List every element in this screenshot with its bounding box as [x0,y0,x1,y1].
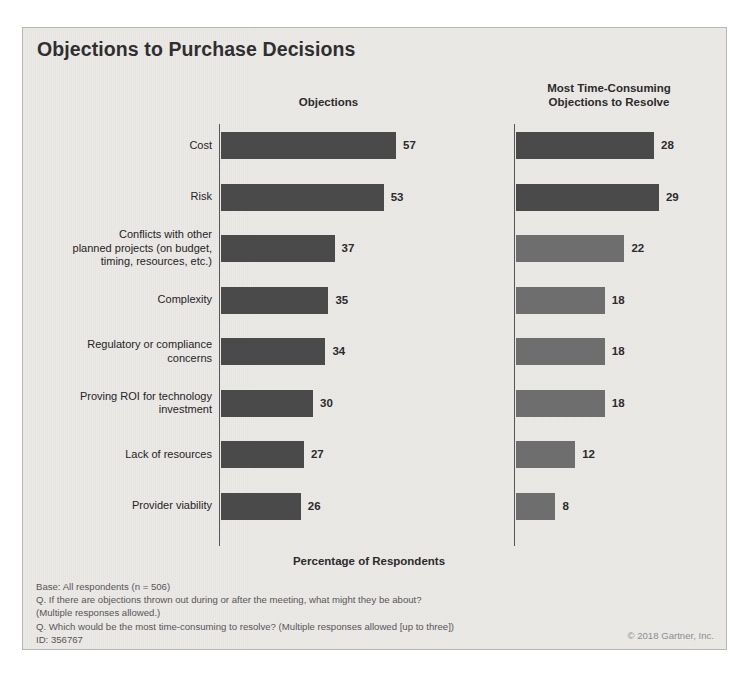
copyright-notice: © 2018 Gartner, Inc. [627,630,714,641]
bar-objections [221,390,313,417]
bar-time-consuming [516,441,575,468]
category-label-line: Risk [30,190,212,204]
footnote-line: (Multiple responses allowed.) [36,606,596,619]
category-label-line: Regulatory or compliance [30,338,212,352]
category-label-line: Conflicts with other [30,228,212,242]
bar-time-consuming [516,132,654,159]
bar-value-time-consuming: 8 [562,493,568,520]
bar-time-consuming [516,235,624,262]
bar-time-consuming [516,493,555,520]
bar-value-objections: 37 [342,235,355,262]
bar-value-objections: 26 [308,493,321,520]
bar-objections [221,441,304,468]
category-label: Regulatory or complianceconcerns [30,338,220,365]
bar-value-time-consuming: 22 [631,235,644,262]
category-label: Provider viability [30,499,220,513]
left-chart-axis [219,124,220,546]
bar-objections [221,184,384,211]
bar-value-objections: 27 [311,441,324,468]
bar-value-time-consuming: 29 [666,184,679,211]
footnote-line: ID: 356767 [36,633,596,646]
bar-value-time-consuming: 12 [582,441,595,468]
bar-value-time-consuming: 18 [612,390,625,417]
bar-time-consuming [516,390,605,417]
category-label: Proving ROI for technologyinvestment [30,390,220,417]
category-label: Lack of resources [30,448,220,462]
category-label-line: Lack of resources [30,448,212,462]
bar-time-consuming [516,338,605,365]
category-label: Complexity [30,293,220,307]
category-label-line: Cost [30,139,212,153]
category-label-line: Proving ROI for technology [30,390,212,404]
bar-value-time-consuming: 18 [612,338,625,365]
footnotes: Base: All respondents (n = 506)Q. If the… [36,580,596,646]
bar-objections [221,287,328,314]
category-label: Cost [30,139,220,153]
category-label-line: Provider viability [30,499,212,513]
category-label: Risk [30,190,220,204]
bar-objections [221,338,325,365]
bar-value-objections: 53 [391,184,404,211]
bar-objections [221,493,301,520]
footnote-line: Q. If there are objections thrown out du… [36,593,596,606]
bar-value-time-consuming: 28 [661,132,674,159]
footnote-line: Q. Which would be the most time-consumin… [36,620,596,633]
chart-slide: Objections to Purchase Decisions Objecti… [22,27,727,650]
category-label-line: Complexity [30,293,212,307]
footnote-line: Base: All respondents (n = 506) [36,580,596,593]
category-label: Conflicts with otherplanned projects (on… [30,228,220,269]
bar-value-objections: 30 [320,390,333,417]
bar-value-objections: 34 [332,338,345,365]
bar-value-objections: 35 [335,287,348,314]
bar-objections [221,235,335,262]
bar-time-consuming [516,287,605,314]
category-label-line: planned projects (on budget, [30,242,212,256]
category-label-line: investment [30,403,212,417]
bar-objections [221,132,396,159]
right-chart-axis [514,124,515,546]
x-axis-caption: Percentage of Respondents [219,555,519,567]
bar-value-objections: 57 [403,132,416,159]
category-label-line: timing, resources, etc.) [30,255,212,269]
bar-value-time-consuming: 18 [612,287,625,314]
category-label-line: concerns [30,352,212,366]
bar-time-consuming [516,184,659,211]
